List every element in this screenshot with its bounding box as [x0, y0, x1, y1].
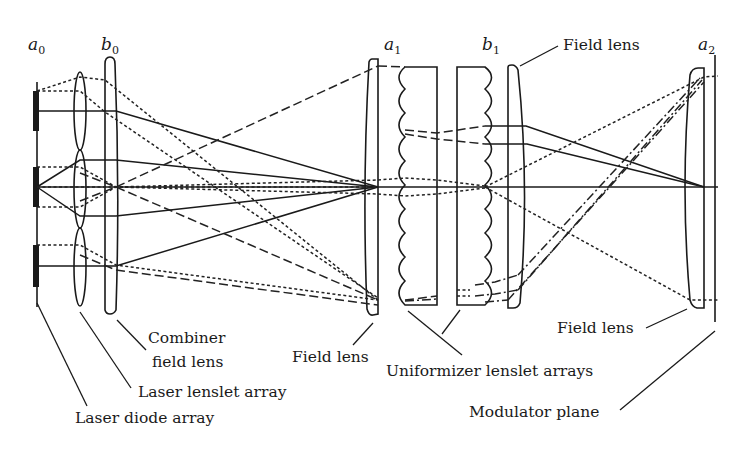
- leader-modulator-plane: [620, 331, 715, 410]
- label-modulator-plane: Modulator plane: [469, 403, 599, 421]
- label-laser-diode-array: Laser diode array: [75, 409, 215, 427]
- symbol-a2: a2: [698, 34, 715, 57]
- leader-laser-lenslet: [80, 312, 131, 388]
- label-field-lens-a1: Field lens: [292, 348, 369, 366]
- label-field-lens-a2: Field lens: [557, 319, 634, 337]
- symbol-a0: a0: [28, 34, 45, 57]
- leader-field-lens-a2: [646, 309, 687, 328]
- leader-laser-diode: [37, 303, 87, 406]
- rays-stage-1: [37, 66, 378, 305]
- symbol-b1: b1: [482, 34, 500, 57]
- leader-combiner: [117, 320, 146, 350]
- laser-diode-array: [33, 82, 39, 307]
- rays-stage-3: [485, 76, 718, 300]
- leader-uniformizer-2: [442, 310, 460, 334]
- uniformizer-lenslet-array-1: [399, 67, 437, 305]
- symbol-b0: b0: [101, 34, 119, 57]
- optical-system-diagram: a0 b0 a1 b1 a2: [0, 0, 747, 456]
- label-combiner-line1: Combiner: [148, 329, 226, 347]
- symbol-a1: a1: [384, 34, 401, 57]
- laser-lenslet-3: [74, 228, 86, 306]
- label-combiner-line2: field lens: [152, 353, 223, 371]
- leader-field-lens-a1: [353, 323, 373, 345]
- label-uniformizer-lenslet-arrays: Uniformizer lenslet arrays: [386, 362, 593, 380]
- field-lens-a2: [685, 68, 704, 308]
- label-laser-lenslet-array: Laser lenslet array: [138, 383, 287, 401]
- laser-lenslet-array: [74, 72, 86, 306]
- label-field-lens-b1: Field lens: [563, 36, 640, 54]
- leader-field-lens-b1: [520, 46, 558, 66]
